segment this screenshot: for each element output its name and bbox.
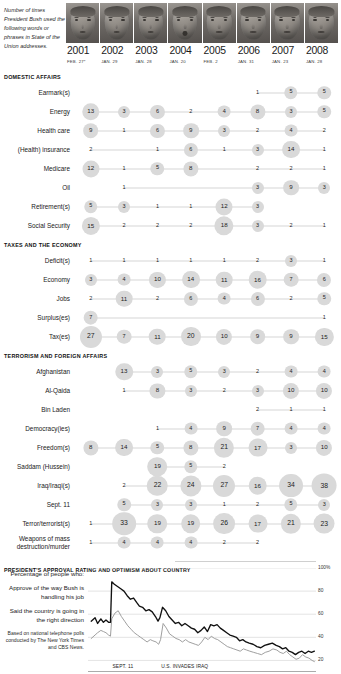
word-count-cell: 9 [183,123,199,139]
word-row-label: Iraq/Iraqi(s) [0,482,74,490]
count-bubble: 4 [151,536,164,549]
word-count-cell: 3 [285,105,297,117]
word-count-cell: 2 [253,538,262,547]
y-axis-tick: 100% [318,565,330,570]
count-value: 5 [156,166,159,172]
count-value: 14 [287,146,294,152]
count-value: 1 [223,147,226,153]
count-value: 4 [223,109,226,115]
count-value: 11 [121,295,127,301]
count-bubble: 14 [115,439,133,457]
count-value: 6 [189,147,192,153]
portrait-2008 [305,3,338,43]
word-count-cell: 4 [285,422,298,435]
word-count-cell: 1 [120,256,129,265]
word-count-cell: 5 [184,365,197,378]
count-value: 2 [89,147,92,153]
count-value: 2 [256,540,259,546]
legend-series-approve: Approve of the way Bush is handling his … [0,584,84,601]
chart-svg [88,568,316,672]
year-value: 2003 [135,45,167,56]
count-value: 8 [189,165,192,171]
count-value: 9 [289,184,292,190]
year-value: 2002 [101,45,133,56]
word-count-cell: 1 [153,145,162,154]
word-row-label: Surplus(es) [0,314,74,322]
word-count-cell: 9 [216,421,232,437]
count-value: 11 [221,276,227,282]
word-row-cells: 11111231 [74,251,341,270]
word-count-cell: 3 [285,254,297,266]
word-count-cell: 3 [285,441,297,453]
count-bubble: 4 [218,105,231,118]
count-bubble: 1 [220,145,229,154]
word-row-cells: 133624835 [74,102,341,121]
word-row: Health care91693242 [0,121,341,140]
count-bubble: 4 [218,292,231,305]
portrait-2002 [100,3,133,43]
word-row-cells: 2771120109915 [74,327,341,346]
count-bubble: 1 [320,145,329,154]
word-row-cells: 183231010 [74,381,341,400]
count-bubble: 16 [248,476,267,495]
count-bubble: 1 [220,256,229,265]
count-bubble: 8 [150,383,165,398]
count-value: 8 [89,444,92,450]
count-bubble: 19 [148,514,168,534]
count-bubble: 27 [213,474,235,496]
word-count-cell: 18 [215,216,234,235]
word-count-cell: 15 [315,327,333,345]
count-value: 2 [256,502,259,508]
count-bubble: 5 [84,200,97,213]
word-row-label: Deficit(s) [0,257,74,265]
word-count-cell: 24 [180,475,201,496]
count-value: 7 [256,426,259,432]
word-row-cells: 211 [74,400,341,419]
count-value: 8 [156,387,159,393]
count-bubble: 1 [86,519,95,528]
word-count-cell: 6 [251,291,265,305]
word-count-cell: 2 [120,221,129,230]
word-count-cell: 5 [318,292,331,305]
count-value: 8 [189,444,192,450]
count-bubble: 2 [120,481,129,490]
word-row-label: Medicare [0,165,74,173]
word-count-cell: 2 [120,481,129,490]
word-row: Al-Qaida183231010 [0,381,341,400]
count-bubble: 3 [151,365,163,377]
word-row-label: Energy [0,108,74,116]
word-count-cell: 34 [279,474,303,498]
word-count-cell: 1 [220,256,229,265]
section-title: TAXES AND THE ECONOMY [4,242,341,248]
count-bubble: 12 [216,198,233,215]
word-count-cell: 27 [213,474,235,496]
word-count-cell: 10 [316,382,332,398]
count-value: 6 [323,277,326,283]
count-value: 7 [89,315,92,321]
count-bubble: 14 [282,141,300,159]
word-count-cell: 3 [252,181,264,193]
word-count-cell: 11 [216,271,233,288]
count-bubble: 21 [281,513,301,533]
word-count-cell: 9 [283,329,299,345]
word-row-cells: 155 [74,83,341,102]
count-bubble: 2 [253,126,262,135]
count-value: 1 [323,258,326,264]
word-count-cell: 11 [149,328,166,345]
count-bubble: 1 [120,126,129,135]
count-bubble: 27 [80,325,102,347]
count-bubble: 1 [186,256,195,265]
count-bubble: 1 [320,256,329,265]
count-value: 2 [123,483,126,489]
count-bubble: 6 [150,104,164,118]
word-count-cell: 2 [186,107,195,116]
year-date: JAN. 28 [306,58,338,65]
count-value: 3 [289,258,292,264]
count-bubble: 9 [216,421,232,437]
year-date: JAN. 31 [238,58,270,65]
count-value: 4 [123,277,126,283]
count-bubble: 5 [184,365,197,378]
word-row-cells: 91693242 [74,121,341,140]
count-bubble: 3 [252,200,264,212]
count-bubble: 3 [252,181,264,193]
